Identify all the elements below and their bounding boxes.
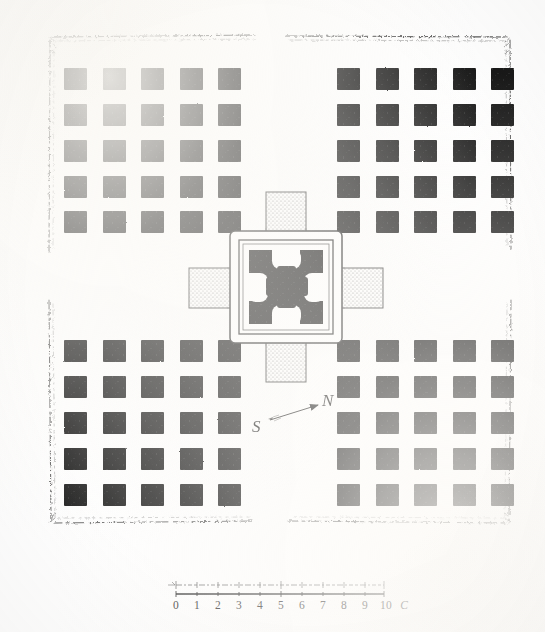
- east-porch: [339, 268, 383, 308]
- pier-quadrant-top-right: [337, 68, 514, 233]
- scale-origin-flourish: [168, 582, 175, 585]
- pier-quadrant-bottom-right: [337, 340, 514, 506]
- floor-plan-drawing: S N 0 1 2 3 4 5: [0, 0, 545, 632]
- scale-tick-2: 2: [215, 599, 221, 611]
- scale-tick-labels: 0 1 2 3 4 5 6 7 8 9 10 C: [173, 599, 408, 611]
- scale-tick-3: 3: [236, 599, 242, 611]
- north-porch: [266, 192, 306, 236]
- south-porch: [266, 338, 306, 382]
- graphic-scale: 0 1 2 3 4 5 6 7 8 9 10 C: [168, 581, 408, 611]
- scale-tick-5: 5: [278, 599, 284, 611]
- west-porch: [189, 268, 233, 308]
- scale-upper-register: [176, 581, 384, 589]
- scale-tick-9: 9: [362, 599, 368, 611]
- scale-unit-label: C: [400, 599, 408, 611]
- compass-direction-indicator: S N: [252, 391, 335, 436]
- scale-baseline: [176, 591, 384, 597]
- compass-south-label: S: [252, 417, 261, 436]
- compass-north-label: N: [321, 391, 335, 410]
- scale-tick-10: 10: [380, 599, 392, 611]
- pier-quadrant-top-left: [64, 68, 241, 233]
- scale-tick-7: 7: [320, 599, 326, 611]
- scale-tick-0: 0: [173, 599, 179, 611]
- scale-tick-1: 1: [194, 599, 200, 611]
- scale-tick-6: 6: [299, 599, 305, 611]
- plate-surface: S N 0 1 2 3 4 5: [0, 0, 545, 632]
- scale-tick-8: 8: [341, 599, 347, 611]
- scale-tick-4: 4: [257, 599, 263, 611]
- pier-quadrant-bottom-left: [64, 340, 241, 506]
